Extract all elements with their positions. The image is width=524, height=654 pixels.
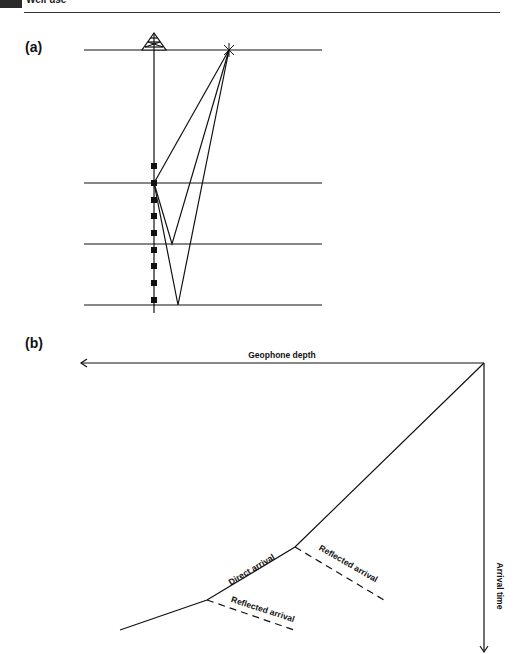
geophone-icon (151, 280, 157, 286)
direct-ray (154, 50, 229, 183)
y-axis-label: Arrival time (495, 563, 505, 610)
reflected-arrival-2-label: Reflected arrival (230, 594, 296, 624)
geophone-icon (151, 197, 157, 203)
reflected-arrival-1-label: Reflected arrival (317, 543, 379, 585)
geophone-icon (151, 297, 157, 303)
geophone-icon (151, 163, 157, 169)
panel-a-diagram (84, 38, 322, 313)
direct-arrival-label: Direct arrival (227, 552, 277, 587)
geophone-icon (151, 180, 157, 186)
geophone-icon (151, 247, 157, 253)
reflected-ray-layer-2 (154, 50, 229, 244)
geophone-icon (151, 213, 157, 219)
geophone-array (151, 163, 157, 303)
geophone-icon (151, 263, 157, 269)
figure-canvas: Geophone depth Arrival time Direct arriv… (0, 0, 524, 654)
derrick-icon (142, 33, 166, 50)
direct-arrival-curve (120, 363, 484, 630)
geophone-icon (151, 230, 157, 236)
panel-b-plot (81, 359, 488, 652)
source-starburst-icon (222, 43, 236, 57)
x-axis-label: Geophone depth (248, 350, 316, 360)
